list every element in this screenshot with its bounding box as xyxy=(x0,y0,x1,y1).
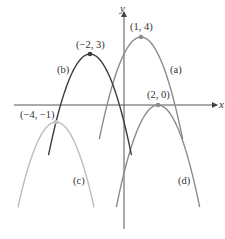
vertex-point-b xyxy=(88,52,93,57)
x-axis-label: x xyxy=(218,98,224,110)
vertex-point-d xyxy=(156,103,161,108)
parabola-a xyxy=(99,37,182,139)
curve-label-c: (c) xyxy=(73,175,85,187)
vertex-label-b: (−2, 3) xyxy=(76,39,105,51)
curve-label-a: (a) xyxy=(170,64,182,76)
vertex-point-a xyxy=(139,35,144,40)
vertex-label-a: (1, 4) xyxy=(130,21,153,33)
vertex-label-d: (2, 0) xyxy=(147,89,170,101)
parabola-graph: x y (1, 4) (−2, 3) (−4, −1) (2, 0) (a) (… xyxy=(0,0,225,239)
y-axis-label: y xyxy=(119,2,125,14)
parabola-d xyxy=(116,105,199,207)
parabola-c xyxy=(18,122,94,207)
vertex-point-c xyxy=(54,120,59,125)
curve-label-b: (b) xyxy=(57,64,70,76)
curve-label-d: (d) xyxy=(178,175,191,187)
vertex-label-c: (−4, −1) xyxy=(20,109,55,121)
